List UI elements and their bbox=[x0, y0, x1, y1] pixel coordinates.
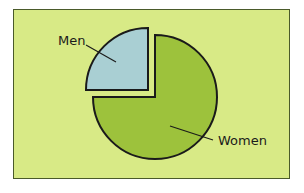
pie-chart: Men Women bbox=[0, 0, 304, 193]
men-label: Men bbox=[58, 33, 85, 48]
pie-slice-men bbox=[86, 28, 148, 90]
women-label: Women bbox=[218, 133, 267, 148]
